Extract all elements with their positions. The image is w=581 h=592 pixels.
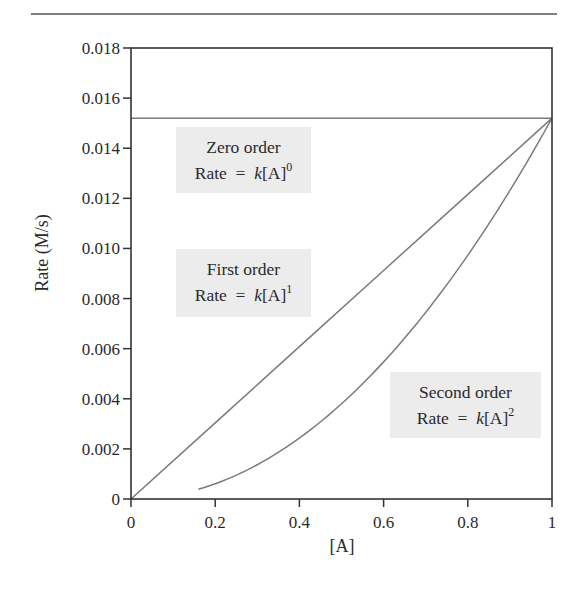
annotation-title: Zero order	[206, 137, 281, 157]
x-axis: 00.20.40.60.81	[127, 499, 557, 532]
y-tick-label: 0.006	[82, 340, 120, 359]
x-tick-label: 0.2	[205, 513, 226, 532]
y-tick-label: 0.016	[82, 89, 120, 108]
annotation-boxes: Zero orderRate = k[A]0First orderRate = …	[176, 127, 541, 438]
y-tick-label: 0.002	[82, 440, 120, 459]
annotation-equation: Rate = k[A]2	[417, 405, 515, 428]
annotation-first-order: First orderRate = k[A]1	[176, 249, 311, 317]
x-tick-label: 0	[127, 513, 136, 532]
x-tick-label: 0.6	[373, 513, 394, 532]
x-tick-label: 0.8	[457, 513, 478, 532]
y-axis: 00.0020.0040.0060.0080.0100.0120.0140.01…	[82, 39, 131, 509]
y-tick-label: 0.008	[82, 290, 120, 309]
x-tick-label: 1	[548, 513, 557, 532]
y-tick-label: 0.004	[82, 390, 121, 409]
x-axis-title: [A]	[330, 536, 355, 556]
annotation-equation: Rate = k[A]1	[195, 282, 293, 305]
annotation-title: First order	[207, 259, 281, 279]
y-tick-label: 0.012	[82, 189, 120, 208]
annotation-zero-order: Zero orderRate = k[A]0	[176, 127, 311, 193]
x-tick-label: 0.4	[289, 513, 311, 532]
y-tick-label: 0	[112, 490, 121, 509]
y-tick-label: 0.018	[82, 39, 120, 58]
y-axis-title: Rate (M/s)	[32, 214, 53, 291]
y-tick-label: 0.010	[82, 239, 120, 258]
y-tick-label: 0.014	[82, 139, 121, 158]
annotation-second-order: Second orderRate = k[A]2	[390, 372, 541, 438]
annotation-equation: Rate = k[A]0	[195, 160, 293, 183]
rate-vs-concentration-chart: Zero orderRate = k[A]0First orderRate = …	[0, 0, 581, 592]
annotation-title: Second order	[419, 382, 512, 402]
